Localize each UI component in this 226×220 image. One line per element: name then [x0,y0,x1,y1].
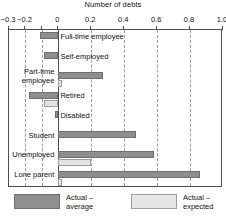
legend-label-expected-line2: expected [183,202,213,211]
category-label: Lone parent [14,171,54,180]
x-tick-label: 1.0 [217,15,226,24]
plot-area [8,29,222,187]
x-tick-mark [90,26,91,30]
legend-label-expected: Actual –expected [183,193,213,211]
bar-expected [58,80,61,87]
gridline [124,30,125,186]
bar-average [58,171,200,178]
x-tick-mark [123,26,124,30]
legend-label-expected-line1: Actual – [183,193,210,202]
exp-swatch [131,194,177,209]
legend-label-average-line2: average [66,202,93,211]
category-label: Part-time employee [22,68,55,85]
gridline [157,30,158,186]
avg-swatch [14,194,60,209]
category-label: Self-employed [60,52,108,61]
legend-label-average-line1: Actual – [66,193,93,202]
bar-average [55,111,58,118]
bar-average [40,32,58,39]
category-label: Disabled [60,112,89,121]
x-tick-mark [8,26,9,30]
x-tick-label: −0.2 [17,15,32,24]
x-tick-mark [189,26,190,30]
x-tick-mark [222,26,223,30]
gridline [25,30,26,186]
bar-expected [58,159,91,166]
x-tick-mark [156,26,157,30]
bar-average [58,72,102,79]
bar-average [58,151,153,158]
chart-axis-title: Number of debts [0,0,226,9]
category-label: Unemployed [12,151,54,160]
x-tick-label: 0 [55,15,59,24]
chart-container: Number of debts −0.3−0.200.20.40.60.81.0… [0,0,226,220]
category-label: Retired [60,92,84,101]
bar-expected [44,100,59,107]
legend-label-average: Actual –average [66,193,93,211]
bar-average [44,52,59,59]
x-tick-label: −0.3 [1,15,16,24]
bar-expected [58,179,61,186]
x-tick-label: 0.8 [184,15,194,24]
chart-legend: Actual –average Actual –expected [0,192,226,220]
category-label: Full-time employee [60,33,123,42]
x-tick-mark [57,26,58,30]
x-tick-mark [41,26,42,30]
plot-inner [9,30,221,186]
x-tick-label: 0.4 [118,15,128,24]
gridline [190,30,191,186]
bar-average [29,92,59,99]
x-axis-tick-labels: −0.3−0.200.20.40.60.81.0 [0,15,226,26]
x-tick-label: 0.2 [85,15,95,24]
x-tick-label: 0.6 [151,15,161,24]
bar-average [58,131,135,138]
category-label: Student [29,131,55,140]
x-tick-mark [24,26,25,30]
